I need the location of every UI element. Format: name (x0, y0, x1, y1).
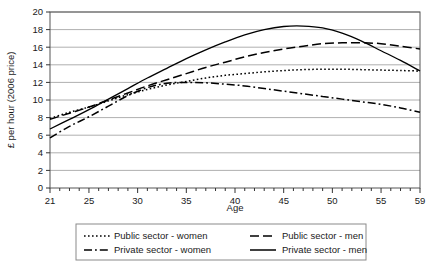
y-tick-label: 0 (38, 182, 43, 193)
legend-label: Public sector - women (114, 230, 207, 241)
y-tick-label: 6 (38, 130, 43, 141)
series-line (50, 82, 420, 137)
y-tick-label: 2 (38, 165, 43, 176)
y-axis-title: £ per hour (2006 price) (5, 52, 16, 149)
chart-container: 02468101214161820 212530354045505559 £ p… (0, 0, 439, 265)
x-tick-label: 45 (278, 195, 289, 206)
legend-label: Private sector - men (282, 244, 367, 255)
y-tick-label: 10 (32, 94, 43, 105)
gridlines (50, 12, 420, 170)
x-tick-label: 25 (84, 195, 95, 206)
x-tick-label: 35 (181, 195, 192, 206)
series-layer (50, 26, 420, 138)
legend-label: Private sector - women (114, 244, 211, 255)
series-line (50, 69, 420, 118)
line-chart: 02468101214161820 212530354045505559 £ p… (0, 0, 439, 265)
x-tick-label: 59 (415, 195, 426, 206)
y-axis: 02468101214161820 (32, 6, 50, 193)
x-tick-label: 30 (132, 195, 143, 206)
x-axis-title: Age (227, 202, 244, 213)
legend-label: Public sector - men (282, 230, 363, 241)
y-tick-label: 16 (32, 42, 43, 53)
series-line (50, 43, 420, 120)
series-line (50, 26, 420, 129)
x-tick-label: 50 (327, 195, 338, 206)
x-tick-label: 21 (45, 195, 56, 206)
chart-legend: Public sector - womenPublic sector - men… (76, 224, 367, 260)
y-tick-label: 4 (38, 147, 43, 158)
y-tick-label: 18 (32, 24, 43, 35)
y-tick-label: 8 (38, 112, 43, 123)
y-tick-label: 20 (32, 6, 43, 17)
y-tick-label: 14 (32, 59, 43, 70)
x-tick-label: 55 (376, 195, 387, 206)
y-tick-label: 12 (32, 77, 43, 88)
